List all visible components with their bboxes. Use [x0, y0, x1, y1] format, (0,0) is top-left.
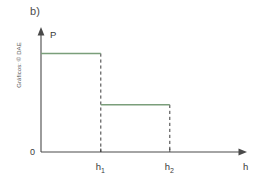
x-tick-label-h1: h1: [96, 161, 105, 174]
x-tick-label-h1-sub: 1: [101, 167, 105, 174]
origin-label: 0: [30, 147, 35, 157]
step-plot: P h 0 h1 h2: [0, 0, 263, 180]
figure-container: b) Gráficos: © DAE P h 0 h1 h2: [0, 0, 263, 180]
x-axis-label: h: [243, 161, 248, 172]
x-tick-label-h2-sub: 2: [170, 167, 174, 174]
x-tick-label-h2: h2: [165, 161, 174, 174]
y-axis-label: P: [50, 29, 56, 40]
x-axis-arrow-icon: [239, 149, 248, 156]
y-axis-arrow-icon: [38, 27, 45, 36]
